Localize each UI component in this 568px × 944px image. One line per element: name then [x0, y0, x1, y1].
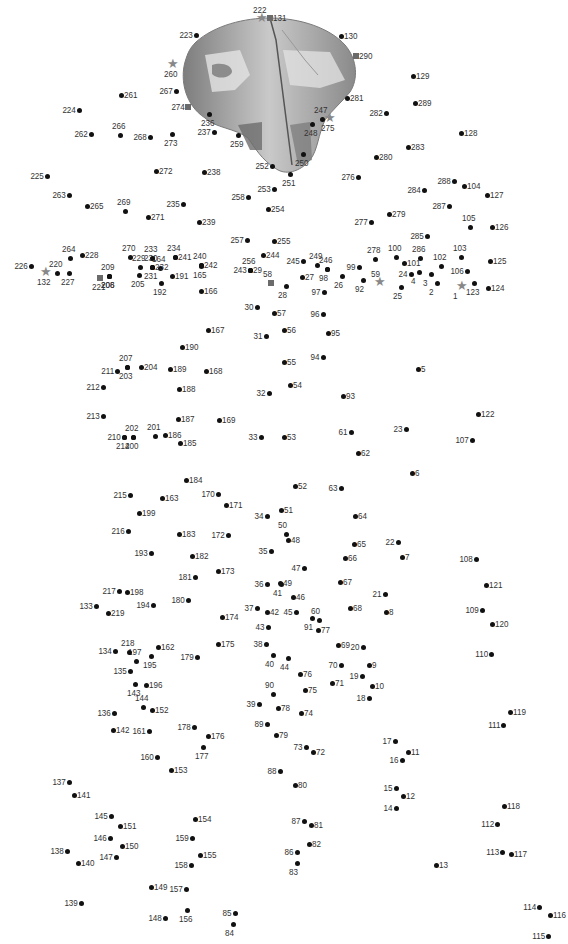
- dot-number-label: 34: [255, 511, 264, 521]
- dot-marker-icon: [302, 566, 307, 571]
- dot-number-label: 144: [135, 693, 148, 703]
- dot-number-label: 62: [361, 448, 370, 458]
- dot-number-label: 30: [245, 302, 254, 312]
- dot-number-label: 285: [411, 231, 424, 241]
- dot-number-label: 141: [77, 790, 90, 800]
- dot-marker-icon: [150, 265, 155, 270]
- dot-number-label: 82: [312, 839, 321, 849]
- dot-marker-icon: [321, 355, 326, 360]
- dot-marker-icon: [112, 711, 117, 716]
- dot-marker-icon: [185, 908, 190, 913]
- dot-marker-icon: [29, 264, 34, 269]
- dot-number-label: 235: [167, 199, 180, 209]
- dot-number-label: 272: [159, 166, 172, 176]
- dot-marker-icon: [501, 723, 506, 728]
- dot-marker-icon: [123, 209, 128, 214]
- dot-marker-icon: [271, 692, 276, 697]
- dot-number-label: 161: [133, 726, 146, 736]
- dot-marker-icon: [282, 435, 287, 440]
- dot-number-label: 3: [423, 278, 428, 288]
- dot-marker-icon: [330, 681, 335, 686]
- dot-marker-icon: [231, 922, 236, 927]
- dot-marker-icon: [195, 655, 200, 660]
- dot-marker-icon: [206, 734, 211, 739]
- dot-marker-icon: [139, 365, 144, 370]
- dot-marker-icon: [184, 478, 189, 483]
- dot-marker-icon: [216, 569, 221, 574]
- dot-number-label: 74: [304, 708, 313, 718]
- dot-number-label: 157: [170, 884, 183, 894]
- dot-marker-icon: [349, 430, 354, 435]
- dot-number-label: 244: [266, 250, 279, 260]
- dot-marker-icon: [133, 682, 138, 687]
- dot-number-label: 22: [386, 537, 395, 547]
- dot-marker-icon: [265, 722, 270, 727]
- dot-number-label: 26: [334, 280, 343, 290]
- dot-number-label: 160: [141, 752, 154, 762]
- dot-number-label: 287: [433, 201, 446, 211]
- dot-number-label: 126: [495, 222, 508, 232]
- dot-marker-icon: [270, 164, 275, 169]
- dot-marker-icon: [284, 284, 289, 289]
- dot-number-label: 243: [234, 265, 247, 275]
- dot-marker-icon: [284, 532, 289, 537]
- dot-marker-icon: [322, 290, 327, 295]
- dot-number-label: 97: [312, 287, 321, 297]
- dot-number-label: 163: [165, 493, 178, 503]
- dot-marker-icon: [361, 645, 366, 650]
- dot-marker-icon: [245, 238, 250, 243]
- dot-marker-icon: [55, 271, 60, 276]
- dot-marker-icon: [141, 705, 146, 710]
- dot-marker-icon: [374, 155, 379, 160]
- square-marker-icon: [268, 280, 274, 286]
- dot-number-label: 73: [294, 742, 303, 752]
- dot-marker-icon: [190, 836, 195, 841]
- dot-marker-icon: [199, 289, 204, 294]
- dot-number-label: 146: [94, 833, 107, 843]
- dot-marker-icon: [144, 683, 149, 688]
- dot-number-label: 159: [176, 833, 189, 843]
- dot-marker-icon: [301, 152, 306, 157]
- dot-marker-icon: [202, 170, 207, 175]
- dot-number-label: 117: [514, 849, 527, 859]
- dot-number-label: 125: [493, 256, 506, 266]
- dot-number-label: 165: [193, 270, 206, 280]
- dot-marker-icon: [233, 911, 238, 916]
- dot-number-label: 27: [305, 272, 314, 282]
- dot-number-label: 115: [532, 931, 545, 941]
- dot-marker-icon: [150, 708, 155, 713]
- dot-number-label: 277: [355, 217, 368, 227]
- dot-number-label: 238: [207, 167, 220, 177]
- dot-marker-icon: [201, 745, 206, 750]
- dot-number-label: 60: [311, 606, 320, 616]
- dot-marker-icon: [272, 311, 277, 316]
- dot-marker-icon: [278, 769, 283, 774]
- dot-marker-icon: [439, 264, 444, 269]
- dot-marker-icon: [343, 556, 348, 561]
- dot-number-label: 49: [283, 578, 292, 588]
- dot-number-label: 259: [230, 139, 243, 149]
- dot-number-label: 23: [394, 424, 403, 434]
- dot-marker-icon: [199, 263, 204, 268]
- dot-marker-icon: [418, 256, 423, 261]
- dot-marker-icon: [207, 112, 212, 117]
- dot-marker-icon: [304, 745, 309, 750]
- dot-number-label: 50: [278, 520, 287, 530]
- dot-marker-icon: [353, 514, 358, 519]
- dot-number-label: 274: [172, 102, 185, 112]
- dot-marker-icon: [108, 836, 113, 841]
- dot-marker-icon: [402, 261, 407, 266]
- dot-marker-icon: [190, 554, 195, 559]
- dot-number-label: 167: [211, 325, 224, 335]
- dot-marker-icon: [336, 643, 341, 648]
- dot-number-label: 92: [355, 284, 364, 294]
- dot-number-label: 142: [116, 725, 129, 735]
- dot-marker-icon: [118, 824, 123, 829]
- dot-number-label: 43: [256, 622, 265, 632]
- dot-marker-icon: [248, 268, 253, 273]
- dot-marker-icon: [181, 202, 186, 207]
- dot-number-label: 185: [183, 438, 196, 448]
- dot-marker-icon: [106, 611, 111, 616]
- dot-marker-icon: [384, 111, 389, 116]
- dot-marker-icon: [267, 391, 272, 396]
